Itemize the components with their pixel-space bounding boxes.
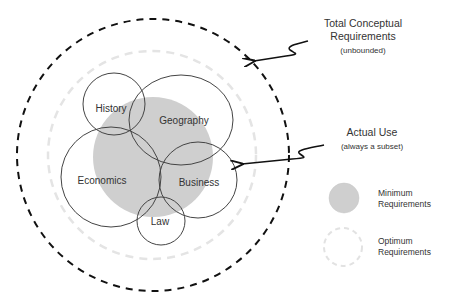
business-label: Business: [179, 177, 220, 188]
law-label: Law: [151, 216, 170, 227]
total-subtitle: (unbounded): [340, 46, 386, 55]
economics-label: Economics: [78, 175, 127, 186]
legend-optimum-swatch: [324, 228, 362, 266]
total-arrow-icon: [254, 41, 308, 61]
actual-use-title: Actual Use: [347, 126, 398, 138]
total-title-line2: Requirements: [330, 30, 395, 42]
legend-optimum-line2: Requirements: [378, 247, 431, 257]
legend-minimum-line1: Minimum: [378, 188, 412, 198]
requirements-diagram: History Geography Economics Business Law…: [0, 0, 451, 296]
legend-optimum-line1: Optimum: [378, 236, 412, 246]
total-title-line1: Total Conceptual: [324, 17, 402, 29]
actual-use-arrow-icon: [242, 145, 324, 164]
actual-use-subtitle: (always a subset): [341, 142, 404, 151]
geography-label: Geography: [159, 115, 208, 126]
legend-minimum-swatch: [329, 183, 359, 213]
legend-minimum-line2: Requirements: [378, 199, 431, 209]
history-label: History: [95, 103, 126, 114]
